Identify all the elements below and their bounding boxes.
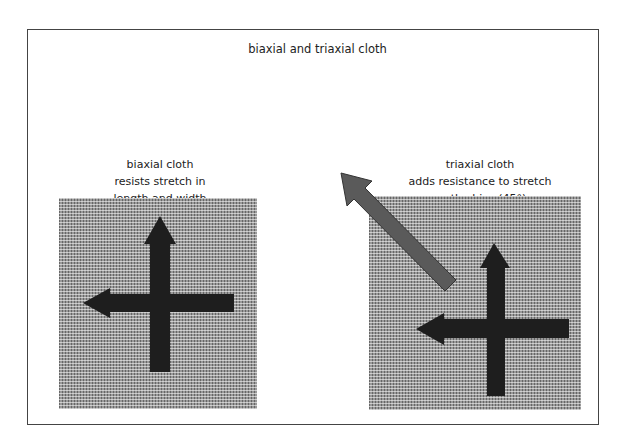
triaxial-bias-arrow-icon [341, 173, 456, 291]
arrows-layer [0, 0, 635, 440]
